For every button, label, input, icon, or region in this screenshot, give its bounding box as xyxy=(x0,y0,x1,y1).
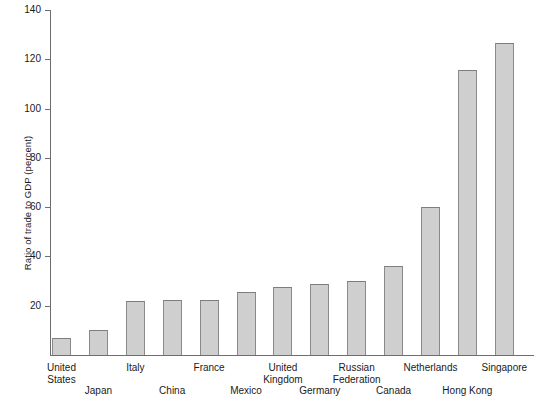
bar xyxy=(421,207,440,355)
y-axis-tick-mark xyxy=(45,109,51,110)
bar xyxy=(458,70,477,355)
bar xyxy=(347,281,366,355)
y-axis-tick-label: 100 xyxy=(24,103,41,114)
x-axis-label: China xyxy=(159,385,185,397)
x-axis-label: Singapore xyxy=(482,362,528,374)
y-axis-tick: 100 xyxy=(45,109,51,110)
x-axis-label: Japan xyxy=(85,385,112,397)
y-axis-tick-mark xyxy=(45,256,51,257)
y-axis-tick-mark xyxy=(45,59,51,60)
y-axis-tick-mark xyxy=(45,306,51,307)
bar xyxy=(89,330,108,355)
bar-chart: Ratio of trade to GDP (percent) 20406080… xyxy=(0,0,539,406)
x-axis-line xyxy=(50,355,534,356)
y-axis-tick-label: 40 xyxy=(30,250,41,261)
bar xyxy=(273,287,292,355)
bar xyxy=(126,301,145,355)
y-axis-tick: 80 xyxy=(45,158,51,159)
bar xyxy=(384,266,403,355)
x-axis-label: Netherlands xyxy=(404,362,458,374)
x-axis-label: UnitedKingdom xyxy=(263,362,302,385)
bar xyxy=(52,338,71,355)
bar xyxy=(495,43,514,355)
x-axis-label: Canada xyxy=(376,385,411,397)
x-axis-label: Mexico xyxy=(230,385,262,397)
y-axis-tick-label: 60 xyxy=(30,201,41,212)
y-axis-tick-label: 140 xyxy=(24,4,41,15)
y-axis-tick: 140 xyxy=(45,10,51,11)
x-axis-label: RussianFederation xyxy=(333,362,381,385)
y-axis-tick-label: 20 xyxy=(30,300,41,311)
y-axis-tick: 60 xyxy=(45,207,51,208)
bar xyxy=(237,292,256,355)
x-axis-label: Italy xyxy=(126,362,144,374)
x-axis-label: Germany xyxy=(299,385,340,397)
x-axis-label: France xyxy=(194,362,225,374)
y-axis-tick-label: 80 xyxy=(30,152,41,163)
y-axis-tick-mark xyxy=(45,10,51,11)
y-axis-tick-mark xyxy=(45,158,51,159)
x-axis-label: UnitedStates xyxy=(47,362,76,385)
bar xyxy=(163,300,182,355)
bar xyxy=(310,284,329,355)
y-axis-tick: 40 xyxy=(45,256,51,257)
y-axis-tick-mark xyxy=(45,207,51,208)
y-axis-tick: 120 xyxy=(45,59,51,60)
bar xyxy=(200,300,219,355)
y-axis-tick: 20 xyxy=(45,306,51,307)
x-axis-label: Hong Kong xyxy=(442,385,492,397)
y-axis-line xyxy=(50,10,51,356)
y-axis-tick-label: 120 xyxy=(24,53,41,64)
